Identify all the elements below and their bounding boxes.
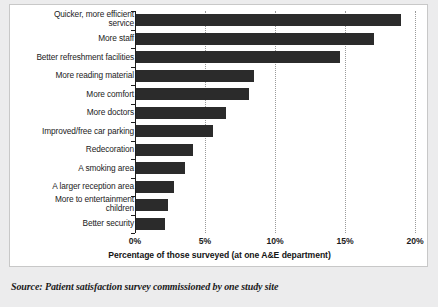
bar [136, 33, 374, 45]
plot-area [135, 11, 427, 233]
bar [136, 88, 249, 100]
category-tick [131, 48, 135, 49]
category-label: More reading material [16, 71, 134, 80]
category-axis-labels: Quicker, more efficientserviceMore staff… [10, 11, 134, 233]
category-tick [131, 233, 135, 234]
bar [136, 51, 340, 63]
bar [136, 162, 185, 174]
bar-row [135, 48, 427, 67]
bar [136, 218, 165, 230]
figure-page: Quicker, more efficientserviceMore staff… [0, 0, 438, 307]
category-label-line: children [16, 204, 134, 213]
x-tick-15: 15% [336, 236, 353, 246]
x-tick-20: 20% [406, 236, 423, 246]
bar [136, 70, 254, 82]
category-label-line: A larger reception area [16, 182, 134, 191]
category-tick [131, 11, 135, 12]
bar [136, 199, 168, 211]
category-label: More staff [16, 34, 134, 43]
bar-row [135, 215, 427, 234]
category-label-line: More staff [16, 34, 134, 43]
chart-panel: Quicker, more efficientserviceMore staff… [9, 4, 428, 267]
bar-row [135, 104, 427, 123]
bar [136, 125, 213, 137]
category-label-line: More doctors [16, 108, 134, 117]
category-label-line: A smoking area [16, 164, 134, 173]
bar [136, 107, 226, 119]
bar-row [135, 178, 427, 197]
category-tick [131, 215, 135, 216]
category-label: More doctors [16, 108, 134, 117]
x-axis-tick-labels: 0%5%10%15%20% [135, 236, 435, 250]
category-label: A smoking area [16, 164, 134, 173]
bar-row [135, 196, 427, 215]
category-label: Better security [16, 219, 134, 228]
x-axis-title: Percentage of those surveyed (at one A&E… [10, 250, 429, 260]
bar [136, 144, 193, 156]
category-label: A larger reception area [16, 182, 134, 191]
category-label-line: service [16, 19, 134, 28]
category-label-line: More reading material [16, 71, 134, 80]
bar-row [135, 30, 427, 49]
bar-row [135, 141, 427, 160]
x-tick-5: 5% [199, 236, 211, 246]
category-tick [131, 196, 135, 197]
category-tick [131, 122, 135, 123]
x-tick-10: 10% [266, 236, 283, 246]
category-tick [131, 67, 135, 68]
bar [136, 181, 174, 193]
category-label: Quicker, more efficientservice [16, 10, 134, 29]
category-label-line: More comfort [16, 90, 134, 99]
bar-row [135, 159, 427, 178]
bar-row [135, 67, 427, 86]
x-tick-0: 0% [129, 236, 141, 246]
category-tick [131, 104, 135, 105]
category-label-line: Better refreshment facilities [16, 53, 134, 62]
category-label-line: Redecoration [16, 145, 134, 154]
category-label-line: Better security [16, 219, 134, 228]
category-label: Better refreshment facilities [16, 53, 134, 62]
category-label-line: Improved/free car parking [16, 127, 134, 136]
bar [136, 14, 401, 26]
category-tick [131, 30, 135, 31]
bar-row [135, 122, 427, 141]
category-tick [131, 141, 135, 142]
source-caption: Source: Patient satisfaction survey comm… [11, 281, 278, 292]
category-tick [131, 159, 135, 160]
category-label: More comfort [16, 90, 134, 99]
bar-row [135, 85, 427, 104]
bar-row [135, 11, 427, 30]
category-label: Improved/free car parking [16, 127, 134, 136]
category-tick [131, 178, 135, 179]
category-tick [131, 85, 135, 86]
category-label: Redecoration [16, 145, 134, 154]
category-label: More to entertainmentchildren [16, 195, 134, 214]
